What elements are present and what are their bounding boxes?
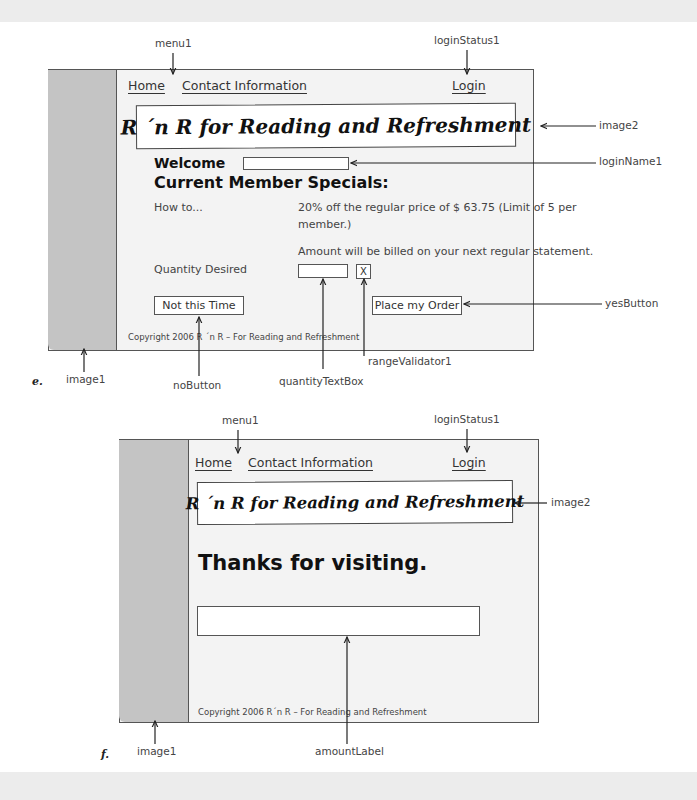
callout-menu1: menu1	[222, 414, 259, 426]
menu-home-link[interactable]: Home	[128, 78, 165, 93]
callout-range-validator1: rangeValidator1	[368, 355, 452, 367]
callout-login-status1: loginStatus1	[434, 413, 500, 425]
callout-image1: image1	[66, 373, 105, 385]
login-status-link[interactable]: Login	[452, 78, 486, 93]
image1-sidebar	[119, 440, 189, 722]
callout-amount-label: amountLabel	[315, 745, 384, 757]
bottom-gray-band	[0, 772, 697, 800]
copyright-text: Copyright 2006 R´n R – For Reading and R…	[198, 707, 427, 717]
callout-quantity-text-box: quantityTextBox	[279, 375, 364, 387]
figure-label-f: f.	[101, 748, 109, 761]
specials-heading: Current Member Specials:	[154, 173, 389, 192]
offer-line-2: member.)	[298, 218, 351, 231]
menu-contact-link[interactable]: Contact Information	[182, 78, 307, 93]
range-validator-marker: X	[356, 264, 371, 279]
copyright-text: Copyright 2006 R ´n R – For Reading and …	[128, 332, 359, 342]
no-button[interactable]: Not this Time	[154, 296, 244, 315]
quantity-label: Quantity Desired	[154, 263, 247, 276]
thanks-heading: Thanks for visiting.	[198, 551, 427, 575]
callout-no-button: noButton	[173, 379, 221, 391]
image2-banner: R ´n R for Reading and Refreshment	[136, 103, 516, 150]
login-status-link[interactable]: Login	[452, 455, 486, 470]
menu-contact-link[interactable]: Contact Information	[248, 455, 373, 470]
how-to-text: How to...	[154, 201, 203, 214]
figure-label-e: e.	[32, 375, 43, 388]
callout-yes-button: yesButton	[605, 297, 658, 309]
image2-banner: R ´n R for Reading and Refreshment	[197, 480, 513, 525]
menu-home-link[interactable]: Home	[195, 455, 232, 470]
callout-image2: image2	[599, 119, 638, 131]
image1-sidebar	[48, 70, 117, 350]
amount-label	[197, 606, 480, 636]
yes-button[interactable]: Place my Order	[372, 296, 462, 315]
callout-login-status1: loginStatus1	[434, 34, 500, 46]
offer-line-1: 20% off the regular price of $ 63.75 (Li…	[298, 201, 577, 214]
callout-image1: image1	[137, 745, 176, 757]
billing-note: Amount will be billed on your next regul…	[298, 245, 593, 258]
callout-login-name1: loginName1	[599, 155, 662, 167]
top-gray-band	[0, 0, 697, 22]
login-name-field	[243, 157, 349, 170]
quantity-text-box[interactable]	[298, 264, 348, 278]
callout-image2: image2	[551, 496, 590, 508]
welcome-label: Welcome	[154, 155, 225, 171]
callout-menu1: menu1	[155, 37, 192, 49]
